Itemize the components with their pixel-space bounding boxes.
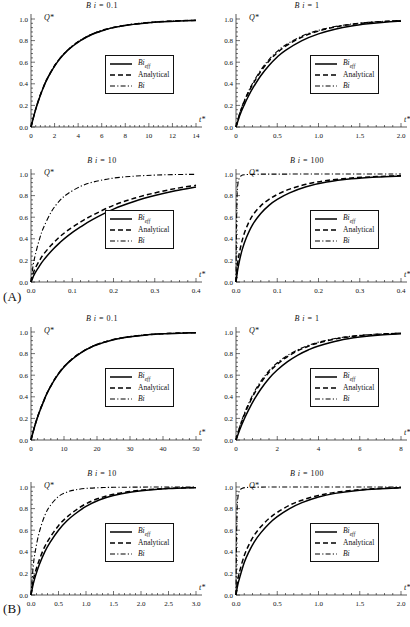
svg-text:0.0: 0.0 <box>224 437 233 445</box>
svg-text:8: 8 <box>399 445 403 453</box>
legend-key-solid <box>109 372 133 382</box>
legend-item: Bieff <box>314 526 374 537</box>
legend: BieffAnalyticalBi <box>105 55 174 94</box>
legend-item: Bieff <box>109 371 169 382</box>
svg-text:1.0: 1.0 <box>224 329 233 337</box>
svg-text:0.2: 0.2 <box>19 257 28 265</box>
x-axis-label: t* <box>404 583 410 592</box>
subplot-b-bi-10: B i = 10Q*0.00.51.01.52.02.53.00.00.20.4… <box>0 468 204 624</box>
svg-text:40: 40 <box>160 445 168 453</box>
svg-text:0.8: 0.8 <box>224 192 233 200</box>
svg-text:1.0: 1.0 <box>19 484 28 492</box>
subplot-b-bi-0.1: B i = 0.1Q*010203040500.00.20.40.60.81.0… <box>0 313 204 469</box>
legend-label: Bieff <box>343 526 355 537</box>
legend-label: Analytical <box>343 70 374 79</box>
legend-label: Bi <box>138 236 145 245</box>
svg-text:1.0: 1.0 <box>19 329 28 337</box>
legend-item: Bieff <box>109 213 169 224</box>
svg-text:50: 50 <box>193 445 201 453</box>
legend-key-dashed <box>314 70 338 80</box>
svg-text:0.2: 0.2 <box>19 415 28 423</box>
svg-text:0.0: 0.0 <box>224 279 233 287</box>
legend-item: Analytical <box>314 69 374 80</box>
legend-label: Bi <box>138 394 145 403</box>
svg-text:0.3: 0.3 <box>355 287 364 295</box>
legend-label: Bieff <box>138 58 150 69</box>
svg-text:0.2: 0.2 <box>314 287 323 295</box>
legend: BieffAnalyticalBi <box>105 368 174 407</box>
svg-text:0.0: 0.0 <box>19 437 28 445</box>
legend-item: Analytical <box>109 224 169 235</box>
legend-key-dashdot <box>109 81 133 91</box>
legend-key-dashdot <box>314 394 338 404</box>
legend-label: Bieff <box>343 58 355 69</box>
legend-item: Bieff <box>109 58 169 69</box>
figure-panel-a: B i = 0.1Q*024681012140.00.20.40.60.81.0… <box>0 0 409 313</box>
legend-key-dashed <box>109 538 133 548</box>
svg-text:10: 10 <box>61 445 69 453</box>
legend-label: Analytical <box>138 383 169 392</box>
svg-text:0.4: 0.4 <box>192 287 201 295</box>
svg-text:0.2: 0.2 <box>19 570 28 578</box>
legend-item: Analytical <box>314 537 374 548</box>
legend-item: Bi <box>109 80 169 91</box>
svg-text:1.0: 1.0 <box>19 171 28 179</box>
svg-text:0.6: 0.6 <box>224 214 233 222</box>
svg-text:4: 4 <box>317 445 321 453</box>
svg-text:0.4: 0.4 <box>397 287 406 295</box>
svg-text:0.8: 0.8 <box>19 192 28 200</box>
legend-key-dashed <box>314 225 338 235</box>
svg-text:0.8: 0.8 <box>224 350 233 358</box>
legend-label: Bieff <box>343 371 355 382</box>
svg-text:2: 2 <box>53 132 57 140</box>
legend-key-dashdot <box>314 549 338 559</box>
legend-label: Analytical <box>343 383 374 392</box>
legend-key-solid <box>109 214 133 224</box>
legend-key-dashed <box>314 383 338 393</box>
svg-text:0.0: 0.0 <box>224 592 233 600</box>
subplot-a-bi-10: B i = 10Q*0.00.10.20.30.40.00.20.40.60.8… <box>0 155 204 311</box>
legend-label: Analytical <box>138 225 169 234</box>
svg-text:0.0: 0.0 <box>19 124 28 132</box>
svg-text:0.5: 0.5 <box>273 600 282 608</box>
subplot-b-bi-100: B i = 100Q*0.00.51.01.52.00.00.20.40.60.… <box>205 468 409 624</box>
svg-text:0.6: 0.6 <box>19 59 28 67</box>
svg-text:0.6: 0.6 <box>224 372 233 380</box>
svg-text:0.2: 0.2 <box>109 287 118 295</box>
svg-text:0.4: 0.4 <box>19 548 28 556</box>
legend-key-dashdot <box>314 81 338 91</box>
svg-text:0.4: 0.4 <box>224 80 233 88</box>
legend-key-solid <box>314 527 338 537</box>
svg-text:0.1: 0.1 <box>273 287 282 295</box>
svg-text:2.0: 2.0 <box>397 132 406 140</box>
legend-label: Bieff <box>138 526 150 537</box>
svg-text:0.2: 0.2 <box>224 102 233 110</box>
legend-label: Analytical <box>138 70 169 79</box>
legend-key-dashed <box>109 70 133 80</box>
legend-item: Bi <box>109 393 169 404</box>
svg-text:0.8: 0.8 <box>19 505 28 513</box>
legend-key-dashed <box>109 225 133 235</box>
legend-item: Analytical <box>314 382 374 393</box>
svg-text:0.8: 0.8 <box>224 37 233 45</box>
svg-text:2.0: 2.0 <box>397 600 406 608</box>
legend-label: Analytical <box>343 538 374 547</box>
svg-text:8: 8 <box>124 132 128 140</box>
legend-item: Bieff <box>314 58 374 69</box>
legend-item: Bieff <box>109 526 169 537</box>
legend-label: Bi <box>343 81 350 90</box>
svg-text:0.4: 0.4 <box>224 548 233 556</box>
panel-label-b: (B) <box>3 601 21 617</box>
svg-text:0.2: 0.2 <box>224 570 233 578</box>
legend: BieffAnalyticalBi <box>105 210 174 249</box>
legend-label: Bi <box>138 81 145 90</box>
legend-key-dashdot <box>109 394 133 404</box>
svg-text:0.6: 0.6 <box>19 527 28 535</box>
svg-text:1.0: 1.0 <box>82 600 91 608</box>
svg-text:0.2: 0.2 <box>224 415 233 423</box>
svg-text:0.0: 0.0 <box>19 592 28 600</box>
svg-text:0.4: 0.4 <box>19 80 28 88</box>
legend-item: Analytical <box>314 224 374 235</box>
legend-label: Bieff <box>343 213 355 224</box>
legend-item: Bi <box>109 235 169 246</box>
